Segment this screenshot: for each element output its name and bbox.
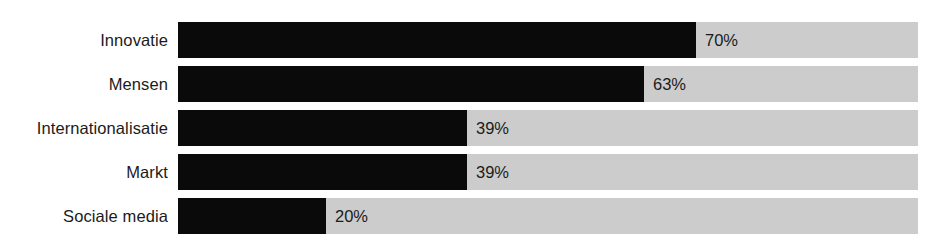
bar-fill [178, 198, 326, 234]
bar-value-label: 20% [326, 198, 368, 234]
bar-fill [178, 22, 696, 58]
bar-row: Sociale media 20% [0, 198, 934, 234]
bar-track: 39% [178, 154, 918, 190]
bar-value-label: 63% [644, 66, 686, 102]
bar-track: 20% [178, 198, 918, 234]
bar-value-label: 39% [467, 154, 509, 190]
category-label: Sociale media [0, 198, 168, 234]
bar-track: 70% [178, 22, 918, 58]
category-label: Markt [0, 154, 168, 190]
bar-fill [178, 154, 467, 190]
bar-track: 63% [178, 66, 918, 102]
bar-fill [178, 110, 467, 146]
category-label: Innovatie [0, 22, 168, 58]
bar-fill [178, 66, 644, 102]
bar-value-label: 70% [696, 22, 738, 58]
horizontal-bar-chart: Innovatie 70% Mensen 63% Internationalis… [0, 0, 934, 243]
bar-row: Innovatie 70% [0, 22, 934, 58]
bar-value-label: 39% [467, 110, 509, 146]
bar-track: 39% [178, 110, 918, 146]
category-label: Mensen [0, 66, 168, 102]
bar-row: Markt 39% [0, 154, 934, 190]
category-label: Internationalisatie [0, 110, 168, 146]
bar-row: Internationalisatie 39% [0, 110, 934, 146]
bar-row: Mensen 63% [0, 66, 934, 102]
